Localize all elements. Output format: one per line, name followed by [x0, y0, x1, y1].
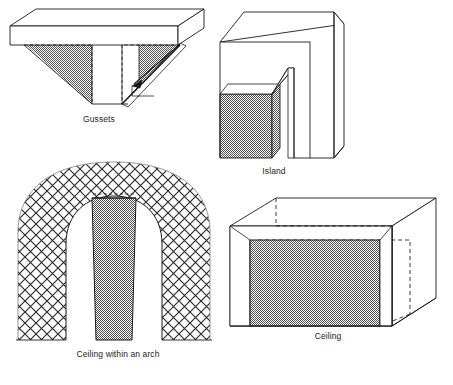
- island-top-face: [220, 12, 344, 42]
- island-right-face: [334, 12, 344, 158]
- figure-gussets: [8, 6, 208, 118]
- ceiling-panel: [250, 240, 380, 326]
- island-block-front-face: [220, 94, 272, 158]
- arch-ceiling-panel: [92, 198, 136, 340]
- slab-front-face: [10, 26, 178, 45]
- ceiling-drawing: [228, 196, 446, 332]
- caption-island: Island: [224, 166, 324, 177]
- island-drawing: [218, 6, 358, 166]
- figure-island: [218, 6, 358, 166]
- stem-front-face: [92, 43, 122, 104]
- caption-gussets: Gussets: [52, 114, 146, 125]
- slab-top-face: [10, 9, 204, 26]
- caption-ceiling: Ceiling: [272, 331, 384, 342]
- island-slot-back-wall: [288, 68, 294, 158]
- ceiling-left-wall-sliver: [230, 226, 250, 326]
- figure-ceiling: [228, 196, 446, 332]
- island-block-top-face: [220, 84, 280, 94]
- arch-drawing: [14, 158, 214, 348]
- caption-arch: Ceiling within an arch: [28, 349, 208, 360]
- diagram-sheet: Gussets: [0, 0, 453, 385]
- figure-arch: [14, 158, 214, 348]
- ceiling-right-wall-sliver: [380, 226, 392, 326]
- gussets-drawing: [8, 6, 208, 118]
- island-block-side-face: [272, 84, 280, 158]
